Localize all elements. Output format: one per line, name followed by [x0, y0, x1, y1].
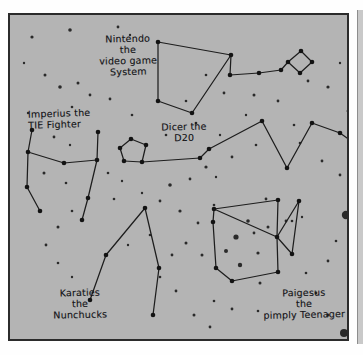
constellation-star: [211, 220, 216, 225]
background-star: [69, 144, 71, 146]
constellation-0: [156, 40, 315, 116]
background-star: [224, 249, 228, 253]
constellation-line: [277, 201, 299, 237]
background-star: [335, 240, 338, 243]
background-star: [246, 219, 250, 223]
constellation-label-dicer: Dicer the D20: [138, 120, 230, 144]
constellation-line: [158, 101, 192, 113]
constellation-line: [27, 187, 40, 211]
constellation-line: [106, 208, 145, 255]
constellation-star: [80, 218, 85, 223]
constellation-star: [96, 130, 101, 135]
background-star: [193, 314, 196, 317]
constellation-line: [214, 200, 278, 209]
background-star: [213, 204, 216, 207]
constellation-star: [260, 119, 265, 124]
background-star: [71, 210, 74, 213]
constellation-star: [290, 252, 295, 257]
constellation-star: [298, 71, 303, 76]
constellation-star: [198, 156, 203, 161]
background-star: [159, 200, 162, 203]
constellation-star: [157, 266, 162, 271]
constellation-star: [299, 49, 304, 54]
background-star: [201, 254, 204, 257]
constellation-line: [64, 160, 97, 163]
constellation-star: [140, 160, 145, 165]
constellation-star: [285, 166, 290, 171]
constellation-line: [28, 152, 64, 163]
background-star: [256, 251, 259, 254]
background-star: [223, 92, 226, 95]
chart-frame: Nintendo the video game System Imperius …: [8, 13, 349, 341]
constellation-line: [288, 51, 301, 62]
background-star: [189, 178, 192, 181]
background-star: [231, 308, 234, 311]
constellation-line: [142, 145, 146, 162]
constellation-star: [151, 313, 156, 318]
background-star: [68, 28, 72, 32]
background-star: [265, 198, 268, 201]
constellation-line: [213, 222, 216, 268]
background-star: [339, 174, 342, 177]
constellation-label-karaties: Karaties the Nunchucks: [26, 286, 135, 321]
background-star: [168, 183, 172, 187]
background-star: [30, 35, 33, 38]
constellation-line: [97, 132, 98, 160]
background-star: [267, 226, 270, 229]
constellation-star: [212, 207, 217, 212]
constellation-label-paigesus: Paigesus the pimply Teenager: [242, 286, 349, 322]
background-star: [326, 85, 329, 88]
constellation-line: [259, 70, 281, 73]
background-star: [57, 262, 60, 265]
constellation-star: [122, 159, 127, 164]
constellation-star: [228, 73, 233, 78]
constellation-star: [86, 196, 91, 201]
constellation-line: [277, 200, 278, 237]
constellation-star: [276, 270, 281, 275]
background-star: [77, 82, 80, 85]
background-star: [141, 192, 143, 194]
constellation-line: [262, 121, 287, 168]
background-star: [44, 74, 47, 77]
constellation-line: [288, 62, 300, 73]
background-star: [45, 244, 48, 247]
background-star: [127, 244, 129, 246]
background-star: [277, 100, 280, 103]
constellation-line: [277, 237, 292, 254]
background-star: [215, 176, 217, 178]
background-star: [171, 254, 174, 257]
constellation-star: [310, 60, 315, 65]
background-star: [159, 276, 162, 279]
constellation-star: [143, 206, 148, 211]
constellation-line: [82, 198, 88, 220]
background-star: [291, 220, 294, 223]
background-star: [233, 234, 238, 239]
constellation-star: [38, 209, 43, 214]
constellation-star: [276, 198, 281, 203]
background-star: [197, 222, 200, 225]
constellation-star: [214, 266, 219, 271]
constellation-star: [279, 68, 284, 73]
constellation-line: [287, 123, 312, 168]
constellation-line: [145, 208, 159, 268]
constellation-line: [124, 161, 142, 162]
background-star: [340, 329, 348, 337]
constellation-line: [301, 51, 312, 62]
background-star: [253, 232, 256, 235]
background-star: [259, 282, 262, 285]
background-star: [121, 180, 123, 182]
background-star: [255, 144, 258, 147]
constellation-star: [286, 60, 291, 65]
background-star: [238, 263, 242, 267]
background-star: [209, 326, 212, 329]
background-star: [204, 165, 207, 168]
background-star: [245, 114, 247, 116]
constellation-star: [95, 158, 100, 163]
constellation-star: [207, 147, 212, 152]
background-star: [213, 300, 216, 303]
constellation-4: [211, 198, 302, 284]
background-star: [53, 136, 56, 139]
constellation-line: [214, 209, 277, 237]
constellation-layer: [25, 40, 349, 318]
constellation-line: [312, 123, 340, 133]
